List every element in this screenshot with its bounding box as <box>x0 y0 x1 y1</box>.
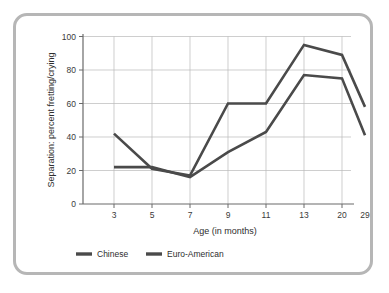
y-axis-tick-labels: 100 80 60 40 20 0 <box>62 32 76 210</box>
y-tick-label-60: 60 <box>67 99 77 109</box>
y-tick-label-0: 0 <box>71 199 76 209</box>
gridlines-vertical <box>114 37 342 205</box>
x-axis-title: Age (in months) <box>193 226 257 236</box>
x-tick-label-13: 13 <box>299 210 309 220</box>
x-axis-tick-labels: 3 5 7 9 11 13 20 29 <box>112 210 370 220</box>
y-tick-label-20: 20 <box>67 166 77 176</box>
chart-legend: Chinese Euro-American <box>76 249 224 259</box>
x-tick-label-5: 5 <box>150 210 155 220</box>
y-tick-label-40: 40 <box>67 132 77 142</box>
legend-label-euro-american: Euro-American <box>167 249 224 259</box>
y-tick-label-80: 80 <box>67 65 77 75</box>
x-tick-label-29: 29 <box>360 210 370 220</box>
gridlines-horizontal <box>83 37 351 171</box>
x-tick-label-3: 3 <box>112 210 117 220</box>
y-tick-label-100: 100 <box>62 32 76 42</box>
x-axis-ticks <box>114 204 342 208</box>
line-chart-figure: 100 80 60 40 20 0 3 5 7 <box>0 0 389 293</box>
x-tick-label-20: 20 <box>337 210 347 220</box>
screenshot-root: 100 80 60 40 20 0 3 5 7 <box>0 0 389 293</box>
chart-svg: 100 80 60 40 20 0 3 5 7 <box>0 0 389 293</box>
y-axis-title: Separation: percent fretting/crying <box>46 52 56 187</box>
x-tick-label-7: 7 <box>188 210 193 220</box>
x-tick-label-11: 11 <box>262 210 271 220</box>
legend-label-chinese: Chinese <box>97 249 128 259</box>
x-tick-label-9: 9 <box>226 210 231 220</box>
